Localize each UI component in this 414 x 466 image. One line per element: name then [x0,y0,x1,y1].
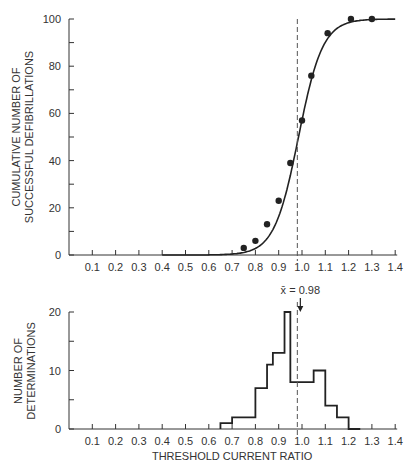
data-point [252,238,258,244]
fitted-curve [162,19,395,255]
x-tick-label: 1.4 [388,261,403,273]
x-tick-label: 0.5 [178,435,193,447]
x-tick-label: 1.3 [364,261,379,273]
data-point [324,30,330,36]
x-tick-label: 0.4 [155,261,170,273]
x-tick-label: 1.0 [294,435,309,447]
x-tick-label: 0.3 [131,261,146,273]
x-tick-label: 0.9 [271,261,286,273]
y-tick-label: 20 [49,202,61,214]
x-tick-label: 1.4 [388,435,403,447]
y-tick-label: 0 [55,423,61,435]
y-tick-label: 10 [49,365,61,377]
arrow-head-icon [297,306,303,312]
x-tick-label: 0.9 [271,435,286,447]
y-tick-label: 0 [55,249,61,261]
x-tick-label: 0.7 [224,261,239,273]
chart-figure: 0204060801000.10.20.30.40.50.60.70.80.91… [0,0,414,466]
data-point [287,160,293,166]
x-axis-label: THRESHOLD CURRENT RATIO [152,450,313,462]
x-tick-label: 0.1 [85,261,100,273]
x-tick-label: 0.8 [248,435,263,447]
data-point [299,117,305,123]
mean-annotation: x̄ = 0.98 [281,284,320,296]
x-tick-label: 0.3 [131,435,146,447]
cumulative-chart: 0204060801000.10.20.30.40.50.60.70.80.91… [10,13,403,273]
y-tick-label: 20 [49,306,61,318]
x-tick-label: 1.2 [341,435,356,447]
x-tick-label: 0.1 [85,435,100,447]
y-axis-label: NUMBER OFDETERMINATIONS [12,322,37,420]
histogram-chart: 010200.10.20.30.40.50.60.70.80.91.01.11.… [12,284,403,462]
histogram-steps [220,312,360,429]
x-tick-label: 0.5 [178,261,193,273]
x-tick-label: 0.7 [224,435,239,447]
x-tick-label: 0.2 [108,435,123,447]
x-tick-label: 0.8 [248,261,263,273]
y-axis-label: CUMULATIVE NUMBER OFSUCCESSFUL DEFIBRILL… [10,51,35,223]
x-tick-label: 1.3 [364,435,379,447]
data-point [348,16,354,22]
data-point [276,198,282,204]
x-tick-label: 1.2 [341,261,356,273]
data-point [241,245,247,251]
data-point [308,72,314,78]
x-tick-label: 0.6 [201,435,216,447]
data-point [264,221,270,227]
y-tick-label: 40 [49,155,61,167]
x-tick-label: 0.6 [201,261,216,273]
x-tick-label: 1.0 [294,261,309,273]
y-tick-label: 80 [49,60,61,72]
x-tick-label: 0.2 [108,261,123,273]
x-tick-label: 1.1 [318,261,333,273]
x-tick-label: 1.1 [318,435,333,447]
y-tick-label: 60 [49,107,61,119]
x-tick-label: 0.4 [155,435,170,447]
data-point [369,16,375,22]
y-tick-label: 100 [43,13,61,25]
